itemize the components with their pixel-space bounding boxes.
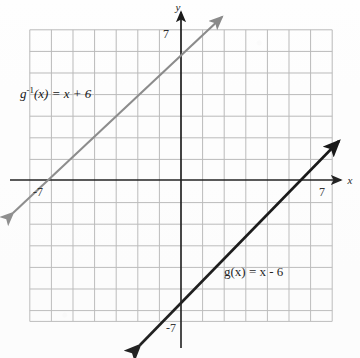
coordinate-plane-figure: y x 7 -7 7 -7 g-1(x) = x + 6 g(x) = x - …	[0, 0, 360, 358]
x-max-tick-label: 7	[319, 185, 325, 199]
function-annotation: g(x) = x - 6	[224, 264, 284, 279]
inverse-annotation-exponent: -1	[27, 85, 35, 95]
x-min-tick-label: -7	[33, 185, 43, 199]
inverse-annotation-rest: (x) = x + 6	[34, 86, 92, 101]
y-min-tick-label: -7	[166, 321, 176, 335]
figure-canvas: y x 7 -7 7 -7 g-1(x) = x + 6 g(x) = x - …	[0, 0, 360, 358]
x-axis-label: x	[347, 174, 353, 186]
y-axis-label: y	[175, 1, 181, 13]
y-max-tick-label: 7	[163, 27, 169, 41]
